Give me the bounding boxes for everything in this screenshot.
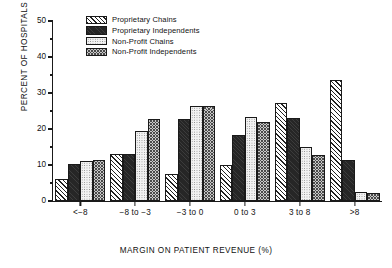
legend-item: Non-Profit Independents [86,47,200,57]
bar [110,154,123,201]
bar [355,192,368,201]
bar [203,106,216,201]
bar-group: 0 to 3 [217,22,272,201]
legend-label: Non-Profit Independents [112,47,197,56]
x-axis-tick-label: −3 to 0 [163,208,218,217]
bar [367,193,380,201]
bar [135,131,148,201]
bar-set [217,22,272,201]
bar [245,117,258,201]
bar-chart: PERCENT OF HOSPITALS MARGIN ON PATIENT R… [0,0,392,268]
x-axis-tick-label: 0 to 3 [217,208,272,217]
x-axis-title: MARGIN ON PATIENT REVENUE (%) [0,246,392,255]
y-axis-tick-label: 40 [22,52,46,61]
legend-label: Proprietary Independents [112,26,200,35]
x-axis-tick [189,201,190,206]
x-axis-tick-label: >8 [327,208,382,217]
bar [165,174,178,201]
bar [93,160,106,201]
x-axis-tick-label: 3 to 8 [272,208,327,217]
bar-set [327,22,382,201]
legend-label: Non-Profit Chains [112,37,174,46]
legend-label: Proprietary Chains [112,15,177,24]
bar [232,135,245,201]
bar [148,119,161,201]
x-axis-tick-label: −8 to −3 [108,208,163,217]
bar [68,164,81,201]
y-axis-tick-label: 50 [22,16,46,25]
chart-legend: Proprietary ChainsProprietary Independen… [86,15,200,57]
bar [178,119,191,201]
x-axis-tick-label: <−8 [53,208,108,217]
x-axis-tick [244,201,245,206]
legend-item: Proprietary Independents [86,26,200,36]
legend-item: Non-Profit Chains [86,36,200,46]
legend-item: Proprietary Chains [86,15,200,25]
bar [300,147,313,201]
bar [220,165,233,201]
legend-swatch [86,48,107,56]
y-axis-tick-label: 10 [22,160,46,169]
legend-swatch [86,16,107,24]
legend-swatch [86,26,107,34]
x-axis-tick [80,201,81,206]
bar [342,160,355,201]
y-axis-tick-label: 20 [22,124,46,133]
bar-group: >8 [327,22,382,201]
legend-swatch [86,37,107,45]
bar [330,80,343,201]
x-axis-tick [354,201,355,206]
bar-group: 3 to 8 [272,22,327,201]
y-axis-tick-label: 0 [22,196,46,205]
x-axis-tick [299,201,300,206]
bar [55,179,68,201]
bar-set [272,22,327,201]
y-axis-tick-label: 30 [22,88,46,97]
x-axis-tick [135,201,136,206]
bar [287,118,300,201]
bar [80,161,93,201]
bar [275,103,288,201]
bar [312,155,325,201]
bar [123,154,136,201]
bar [190,106,203,201]
bar [257,122,270,201]
